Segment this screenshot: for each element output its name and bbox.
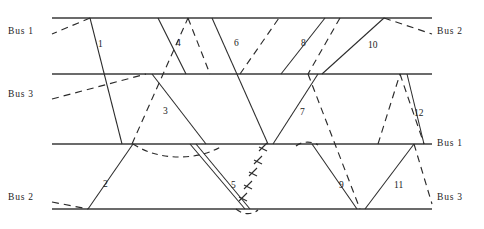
segment-number-6: 6 <box>234 38 239 48</box>
bus-label-left-1: Bus 1 <box>8 27 34 37</box>
dashed-c <box>132 18 188 144</box>
tick-dashed-path-group <box>239 143 267 201</box>
bus-label-left-2: Bus 2 <box>8 193 34 203</box>
segment-number-7: 7 <box>300 107 305 117</box>
path-1 <box>90 18 122 144</box>
segment-number-10: 10 <box>368 40 378 50</box>
segment-numbers-group: 1 2 3 4 5 6 7 8 9 10 11 12 <box>98 38 424 190</box>
segment-number-4: 4 <box>176 38 181 48</box>
path-4 <box>158 18 186 74</box>
bus-label-right-1: Bus 1 <box>437 139 463 149</box>
path-5a <box>190 144 245 209</box>
curve-bus2-arc <box>133 144 222 157</box>
segment-number-5: 5 <box>231 180 236 190</box>
segment-number-11: 11 <box>394 180 403 190</box>
segment-number-1: 1 <box>98 39 103 49</box>
segment-number-3: 3 <box>163 106 168 116</box>
dashed-b <box>52 74 146 99</box>
bus-label-right-3: Bus 3 <box>437 193 463 203</box>
dashed-g <box>308 74 360 209</box>
segment-number-9: 9 <box>339 180 344 190</box>
bus-label-left-3: Bus 3 <box>8 90 34 100</box>
dashed-h <box>384 18 432 34</box>
path-7 <box>273 74 318 144</box>
path-9 <box>312 144 357 209</box>
dashed-a <box>52 18 90 34</box>
path-6 <box>212 18 268 144</box>
segment-number-2: 2 <box>103 179 108 189</box>
dashed-i <box>378 74 400 144</box>
dashed-k <box>52 202 88 209</box>
space-time-diagram: 1 2 3 4 5 6 7 8 9 10 11 12 <box>0 0 484 229</box>
bus-label-right-2: Bus 2 <box>437 27 463 37</box>
path-3 <box>152 74 206 144</box>
segment-number-12: 12 <box>414 108 424 118</box>
figure-canvas: 1 2 3 4 5 6 7 8 9 10 11 12 Bus 1 Bus 3 B… <box>0 0 484 229</box>
dashed-f <box>308 18 340 74</box>
dashed-d <box>188 18 210 74</box>
path-2 <box>88 144 133 209</box>
segment-number-8: 8 <box>301 38 306 48</box>
path-11 <box>365 144 414 209</box>
dashed-l <box>414 144 432 204</box>
dashed-e <box>240 18 279 74</box>
dashed-curves-group <box>133 142 318 214</box>
